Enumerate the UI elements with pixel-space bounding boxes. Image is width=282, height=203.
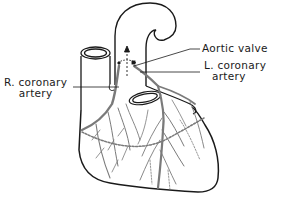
label-l-coronary-line2: artery	[204, 71, 266, 82]
label-r-coronary-artery: R. coronary artery	[4, 77, 67, 99]
label-l-coronary-artery: L. coronary artery	[204, 60, 266, 82]
heart-coronary-diagram	[0, 0, 282, 203]
leader-aortic-valve	[134, 49, 200, 66]
pulmonary-trunk	[128, 89, 162, 107]
label-aortic-valve-text: Aortic valve	[202, 42, 268, 54]
superior-vena-cava	[81, 47, 110, 110]
label-aortic-valve: Aortic valve	[202, 43, 268, 54]
aortic-valve-marker	[118, 46, 136, 76]
coronary-vessels	[82, 66, 204, 190]
label-r-coronary-line2: artery	[4, 88, 67, 99]
